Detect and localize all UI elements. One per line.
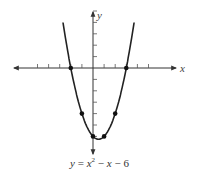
data-point bbox=[124, 66, 129, 71]
data-point bbox=[80, 111, 85, 116]
data-point bbox=[91, 134, 96, 139]
data-points bbox=[69, 66, 129, 139]
equation-caption: y = x2 − x − 6 bbox=[0, 156, 199, 169]
data-point bbox=[102, 134, 107, 139]
parabola-chart: x y bbox=[0, 0, 199, 180]
parabola-curve bbox=[63, 23, 134, 140]
data-point bbox=[69, 66, 74, 71]
x-axis-label: x bbox=[179, 62, 185, 74]
data-point bbox=[113, 111, 118, 116]
